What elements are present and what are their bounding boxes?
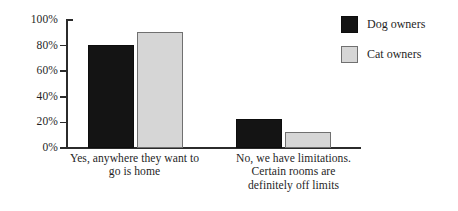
bar-chart: 100%80%60%40%20%0% Yes, anywhere they wa… xyxy=(0,0,458,211)
bar-cat-owners xyxy=(137,32,183,148)
legend-item-label: Dog owners xyxy=(367,18,425,30)
y-axis-tick xyxy=(60,122,67,124)
chart-legend: Dog ownersCat owners xyxy=(341,12,453,72)
y-axis-tick-label: 80% xyxy=(12,40,58,52)
legend-swatch-icon xyxy=(341,46,358,63)
y-axis-line xyxy=(66,20,68,148)
y-axis-tick xyxy=(60,70,67,72)
y-axis-tick xyxy=(60,45,67,47)
y-axis-tick-label: 60% xyxy=(12,65,58,77)
y-axis-tick-label: 40% xyxy=(12,91,58,103)
category-label-line: go is home xyxy=(46,165,223,178)
y-axis-tick xyxy=(66,19,73,21)
legend-item-dog-owners[interactable]: Dog owners xyxy=(341,12,453,36)
bar-cat-owners xyxy=(285,132,331,148)
bar-dog-owners xyxy=(236,119,282,148)
bar-dog-owners xyxy=(88,45,134,148)
x-axis-category-label: No, we have limitations.Certain rooms ar… xyxy=(205,152,382,192)
category-label-line: definitely off limits xyxy=(205,179,382,192)
legend-item-cat-owners[interactable]: Cat owners xyxy=(341,42,453,66)
x-axis-category-label: Yes, anywhere they want togo is home xyxy=(46,152,223,179)
legend-swatch-icon xyxy=(341,16,358,33)
y-axis-tick-label: 20% xyxy=(12,116,58,128)
y-axis-tick xyxy=(60,96,67,98)
category-label-line: Certain rooms are xyxy=(205,165,382,178)
category-label-line: No, we have limitations. xyxy=(205,152,382,165)
y-axis-tick-label: 100% xyxy=(12,14,58,26)
legend-item-label: Cat owners xyxy=(367,48,421,60)
category-label-line: Yes, anywhere they want to xyxy=(46,152,223,165)
